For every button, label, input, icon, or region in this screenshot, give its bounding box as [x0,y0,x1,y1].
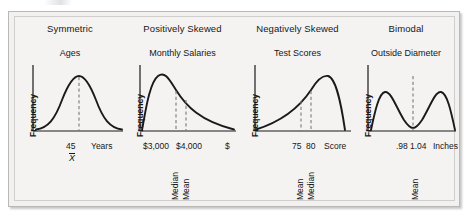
tick-label: 80 [306,141,315,151]
panel-negatively-skewed: Negatively Skewed Test Scores Frequency … [240,17,355,200]
plot-area [138,63,238,139]
panel-title: Symmetric [15,23,125,34]
plot-area [366,63,458,139]
distribution-curve-bimodal [366,63,458,139]
figure-inner-panel: Symmetric Ages Frequency 45 X [14,16,455,201]
tick-label: 45 [66,141,75,151]
stat-label-mean: Mean [181,179,191,200]
x-axis-name: $ [225,141,230,151]
tick-label: 75 [292,141,301,151]
tick-label-group: 45 [66,141,75,151]
stat-label-mean: Mean [295,179,305,200]
panel-positively-skewed: Positively Skewed Monthly Salaries Frequ… [125,17,240,200]
x-bar-letter: X [69,153,75,163]
tick-label: $4,000 [176,141,202,151]
panel-title: Bimodal [355,23,457,34]
panel-bimodal: Bimodal Outside Diameter Frequency .98 1… [355,17,457,200]
panel-symmetric: Symmetric Ages Frequency 45 X [15,17,125,200]
distribution-curve-negative-skew [253,63,353,139]
stat-label-mean: Mean [410,179,420,200]
scan-artifact [44,0,72,5]
panel-subtitle: Test Scores [240,48,355,58]
stat-label-median: Median [306,172,316,200]
figure-frame: Symmetric Ages Frequency 45 X [8,11,460,207]
panel-subtitle: Monthly Salaries [125,48,240,58]
x-bar-symbol: X [61,153,83,163]
panel-subtitle: Ages [15,48,125,58]
stat-label-median: Median [170,172,180,200]
tick-label: .98 [396,141,408,151]
distribution-curve-symmetric [31,63,125,139]
x-axis-name: Score [324,141,346,151]
panel-title: Negatively Skewed [240,23,355,34]
plot-area [31,63,125,139]
x-axis-name: Inches [433,141,458,151]
panel-title: Positively Skewed [125,23,240,34]
panel-subtitle: Outside Diameter [355,48,457,58]
distribution-curve-positive-skew [138,63,238,139]
x-axis-name: Years [91,141,112,151]
tick-label: $3,000 [143,141,169,151]
distribution-shapes-figure: Symmetric Ages Frequency 45 X [0,0,474,221]
tick-label: 1.04 [410,141,427,151]
plot-area [253,63,353,139]
